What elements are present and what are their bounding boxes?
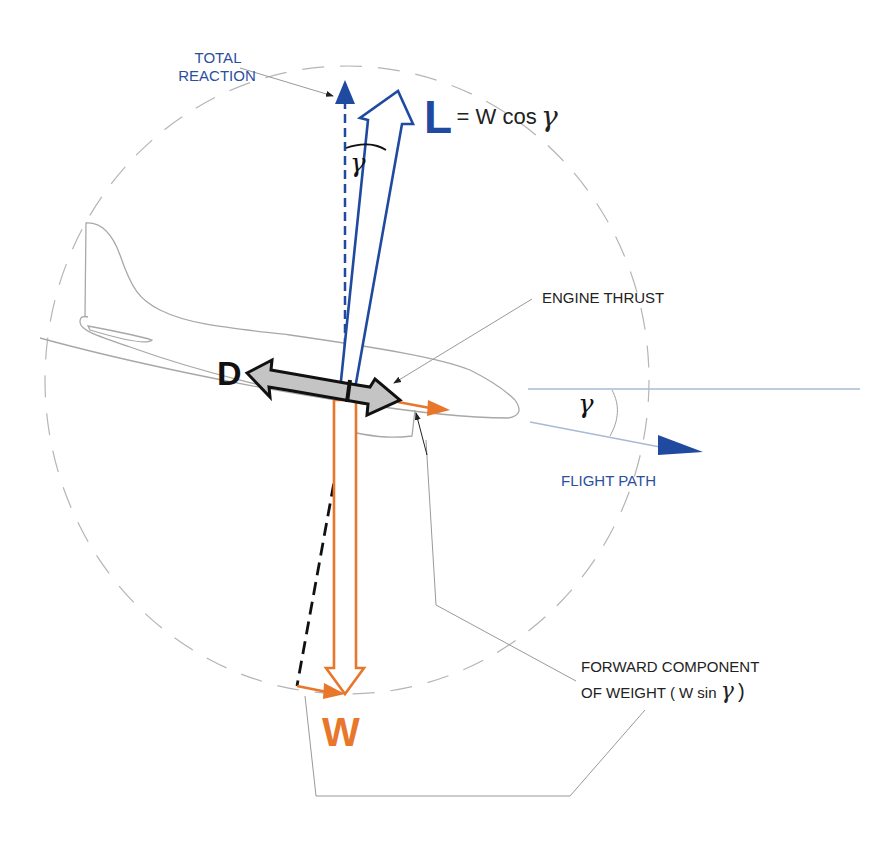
total-reaction-label-line1: TOTAL [168, 50, 268, 65]
forward-component-close: ) [738, 680, 745, 702]
flight-path-label: FLIGHT PATH [561, 473, 656, 488]
engine-thrust-leader-line [394, 299, 532, 383]
lift-arrow [339, 91, 413, 400]
engine-thrust-label: ENGINE THRUST [542, 290, 664, 305]
lift-gamma-symbol: γ [541, 100, 558, 133]
aircraft-outline [40, 223, 519, 437]
thrust-component-line [398, 402, 430, 408]
drag-symbol: D [217, 356, 242, 390]
weight-symbol: W [322, 712, 360, 752]
forward-component-line1: FORWARD COMPONENT [581, 659, 759, 674]
weight-arrow [326, 400, 364, 694]
gamma-angle-arc-right [610, 390, 617, 436]
forward-component-label: FORWARD COMPONENT OF WEIGHT ( W sin γ ) [581, 659, 759, 702]
gamma-top-label: γ [350, 150, 366, 176]
total-reaction-label: TOTAL REACTION [168, 50, 268, 83]
lift-symbol: L [424, 91, 452, 143]
flight-path-line [530, 422, 660, 447]
forward-component-gamma: γ [721, 678, 734, 703]
forward-component-line2: OF WEIGHT ( W sin [581, 684, 717, 701]
forward-component-leader-top [426, 440, 576, 681]
lift-equation: L = W cos γ [424, 94, 558, 140]
forward-component-line [297, 686, 327, 692]
total-reaction-arrowhead-icon [335, 80, 355, 104]
flight-path-arrowhead-icon [658, 435, 703, 455]
forward-component-leader-arrow [416, 413, 427, 455]
gamma-right-label: γ [578, 391, 594, 417]
drag-double-arrow [247, 360, 400, 415]
lift-equation-text: = W cos [457, 104, 537, 129]
total-reaction-label-line2: REACTION [166, 68, 268, 83]
